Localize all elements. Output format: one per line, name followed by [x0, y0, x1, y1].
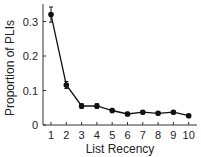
series-line [51, 15, 189, 116]
y-tick-label: 0 [32, 119, 38, 131]
x-tick-label: 6 [124, 129, 130, 141]
x-tick-label: 7 [140, 129, 146, 141]
data-point [79, 103, 85, 109]
x-axis: 12345678910 [43, 122, 197, 141]
line-chart: 00.10.20.3 12345678910 Proportion of PLI… [0, 0, 201, 157]
x-tick-label: 2 [63, 129, 69, 141]
data-point [94, 103, 100, 109]
data-point [125, 111, 131, 117]
data-point [48, 12, 54, 18]
x-tick-label: 9 [170, 129, 176, 141]
x-tick-label: 10 [183, 129, 195, 141]
data-point [109, 108, 115, 114]
x-tick-label: 4 [94, 129, 100, 141]
x-axis-label: List Recency [86, 142, 155, 156]
x-tick-label: 8 [155, 129, 161, 141]
data-series [48, 7, 191, 118]
data-point [64, 82, 70, 88]
x-tick-label: 3 [79, 129, 85, 141]
data-point [186, 113, 192, 119]
x-tick-label: 5 [109, 129, 115, 141]
data-point [155, 110, 161, 116]
y-tick-label: 0.2 [23, 50, 38, 62]
y-axis-label: Proportion of PLIs [3, 20, 17, 116]
y-tick-label: 0.3 [23, 16, 38, 28]
y-tick-label: 0.1 [23, 85, 38, 97]
data-point [171, 109, 177, 115]
x-tick-label: 1 [48, 129, 54, 141]
y-axis: 00.10.20.3 [23, 4, 46, 131]
data-point [140, 109, 146, 115]
